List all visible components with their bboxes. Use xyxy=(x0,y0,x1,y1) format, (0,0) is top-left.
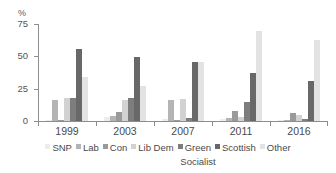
y-tick-mark xyxy=(34,89,38,90)
legend-item[interactable]: Other xyxy=(260,140,291,154)
legend-label: Other xyxy=(267,141,291,154)
legend-item[interactable]: Lib Dem xyxy=(131,140,173,154)
legend-label: Lib Dem xyxy=(138,141,173,154)
x-tick-label: 2011 xyxy=(221,125,261,137)
bar xyxy=(198,62,204,121)
bar xyxy=(140,86,146,121)
y-tick-label: 50 xyxy=(17,51,28,61)
x-tick-mark xyxy=(38,122,39,126)
y-axis-tick-labels: 0255075 xyxy=(0,24,34,121)
bar-chart: % 0255075 19992003200720112016 SNPLabCon… xyxy=(0,0,336,173)
x-tick-label: 2007 xyxy=(163,125,203,137)
chart-legend: SNPLabConLib DemGreenScottishOther Socia… xyxy=(0,139,336,168)
x-tick-label: 2003 xyxy=(105,125,145,137)
x-tick-mark xyxy=(270,122,271,126)
y-tick-mark xyxy=(34,24,38,25)
bar-group xyxy=(96,24,154,121)
x-tick-mark xyxy=(327,122,328,126)
plot-area xyxy=(38,24,328,121)
bar-group xyxy=(38,24,96,121)
y-axis-title: % xyxy=(18,8,26,18)
legend-row-1: SNPLabConLib DemGreenScottishOther xyxy=(0,139,336,154)
x-tick-label: 1999 xyxy=(47,125,87,137)
x-tick-mark xyxy=(96,122,97,126)
legend-item[interactable]: Lab xyxy=(76,140,99,154)
legend-row-2: Socialist xyxy=(0,155,336,168)
bar xyxy=(52,100,58,121)
bar-group xyxy=(154,24,212,121)
x-tick-mark xyxy=(154,122,155,126)
bar xyxy=(256,31,262,121)
y-tick-label: 75 xyxy=(17,19,28,29)
bar xyxy=(314,40,320,121)
bar xyxy=(82,77,88,121)
legend-swatch-icon xyxy=(45,144,50,149)
y-tick-mark xyxy=(34,56,38,57)
bar xyxy=(168,100,174,121)
legend-label: Lab xyxy=(83,141,99,154)
legend-label: SNP xyxy=(52,141,72,154)
legend-swatch-icon xyxy=(215,144,220,149)
y-tick-label: 25 xyxy=(17,84,28,94)
y-tick-label: 0 xyxy=(23,116,28,126)
legend-item[interactable]: Con xyxy=(103,140,127,154)
y-tick-mark xyxy=(34,121,38,122)
legend-label: Green xyxy=(185,141,211,154)
x-axis: 19992003200720112016 xyxy=(38,122,328,138)
legend-label: Scottish xyxy=(222,141,256,154)
legend-item[interactable]: Green xyxy=(178,140,211,154)
bar-group xyxy=(270,24,328,121)
legend-swatch-icon xyxy=(76,144,81,149)
bar-group xyxy=(212,24,270,121)
legend-label: Con xyxy=(110,141,127,154)
legend-swatch-icon xyxy=(178,144,183,149)
legend-swatch-icon xyxy=(131,144,136,149)
legend-item[interactable]: SNP xyxy=(45,140,72,154)
x-tick-mark xyxy=(212,122,213,126)
x-tick-label: 2016 xyxy=(279,125,319,137)
legend-swatch-icon xyxy=(260,144,265,149)
legend-item[interactable]: Scottish xyxy=(215,140,256,154)
legend-swatch-icon xyxy=(103,144,108,149)
